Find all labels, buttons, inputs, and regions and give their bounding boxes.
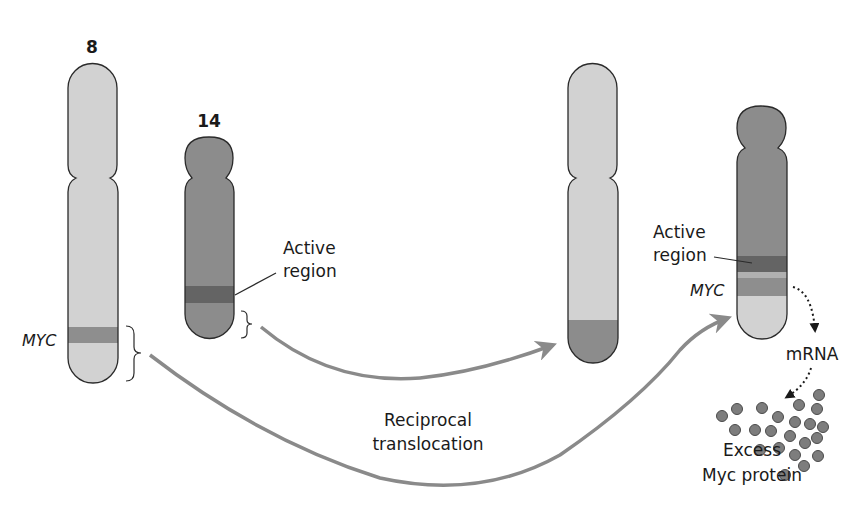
chromosome-8-label: 8 — [86, 37, 98, 57]
myc-label-right: MYC — [690, 281, 725, 300]
myc-band — [60, 327, 130, 343]
protein-label-line2: Myc protein — [702, 465, 802, 485]
myc-label-left: MYC — [22, 331, 57, 350]
bracket-chr14 — [241, 311, 252, 338]
active-region-right-line2: region — [653, 245, 707, 265]
bracket-chr8 — [126, 326, 141, 381]
reciprocal-translocation-line1: Reciprocal — [384, 410, 472, 430]
translation-arrow — [787, 368, 811, 397]
chromosome-14: 14 Active region — [178, 111, 337, 350]
mrna-label: mRNA — [786, 344, 839, 364]
reciprocal-translocation-line2: translocation — [372, 434, 483, 454]
chromosome-14-label: 14 — [197, 111, 221, 131]
translocation-diagram: 8 MYC 14 Active region Reciprocal transl… — [0, 0, 849, 514]
active-band-der14 — [730, 256, 794, 272]
derivative-chromosome-8 — [560, 55, 630, 380]
arrow-14-to-der8 — [261, 327, 553, 379]
active-region-left-line1: Active — [283, 238, 336, 258]
protein-label-line1: Excess — [723, 440, 781, 460]
active-region-left-line2: region — [283, 261, 337, 281]
myc-band-der14 — [730, 278, 794, 296]
active-band — [178, 286, 242, 303]
active-region-right-line1: Active — [653, 222, 706, 242]
transcription-arrow — [793, 287, 815, 330]
chromosome-8: 8 MYC — [22, 37, 141, 395]
active-region-pointer — [235, 273, 276, 295]
derivative-chromosome-14: Active region MYC — [653, 100, 794, 350]
arrow-8-to-der14 — [150, 318, 728, 485]
